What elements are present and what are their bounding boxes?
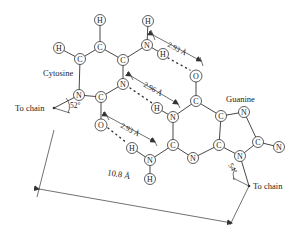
atom-c: C	[118, 55, 129, 66]
atom-c: C	[253, 137, 264, 148]
atom-n: N	[235, 151, 246, 162]
atom-n: N	[145, 155, 156, 166]
atom-c: C	[96, 92, 107, 103]
svg-text:N: N	[190, 154, 196, 163]
svg-text:N: N	[144, 41, 150, 50]
svg-text:H: H	[160, 50, 166, 59]
hbond-middle-label: 2.96 Å	[142, 80, 165, 98]
atom-n: N	[168, 112, 179, 123]
svg-text:N: N	[241, 108, 247, 117]
to-chain-right-label: To chain	[253, 181, 283, 191]
distance-markers	[37, 30, 249, 225]
atom-c: C	[168, 140, 179, 151]
atom-n: N	[118, 79, 129, 90]
atom-h: H	[145, 174, 156, 185]
atom-h: H	[158, 49, 169, 60]
svg-text:C: C	[77, 55, 82, 64]
svg-text:N: N	[170, 113, 176, 122]
svg-text:C: C	[98, 93, 103, 102]
svg-text:H: H	[154, 104, 160, 113]
atom-n: N	[142, 40, 153, 51]
cytosine-label: Cytosine	[43, 68, 73, 78]
svg-text:N: N	[276, 143, 282, 152]
atom-h: H	[54, 43, 65, 54]
atom-c: C	[214, 140, 225, 151]
atom-h: H	[143, 16, 154, 27]
svg-text:N: N	[120, 80, 126, 89]
atom-c: C	[216, 111, 227, 122]
svg-text:C: C	[216, 141, 221, 150]
atom-c: C	[75, 54, 86, 65]
svg-text:C: C	[193, 97, 198, 106]
atom-o: O	[190, 70, 202, 82]
atom-h: H	[152, 103, 163, 114]
svg-text:H: H	[129, 144, 135, 153]
hbond-bottom-label: 2.93 Å	[119, 121, 142, 139]
svg-text:N: N	[76, 91, 82, 100]
atom-h: H	[127, 143, 138, 154]
hydrogen-bonds	[108, 58, 190, 143]
angle-right-label: 54°	[226, 162, 239, 176]
atom-n: N	[188, 153, 199, 164]
svg-text:N: N	[147, 156, 153, 165]
to-chain-left-label: To chain	[15, 103, 45, 113]
svg-text:H: H	[145, 17, 151, 26]
svg-text:C: C	[120, 56, 125, 65]
atom-c: C	[95, 42, 106, 53]
atom-n: N	[274, 142, 285, 153]
base-pair-diagram: H C H C C N H H N N C O O C N H C N C N …	[0, 0, 299, 238]
chain-distance-label: 10.8 Å	[107, 167, 132, 181]
svg-text:C: C	[97, 43, 102, 52]
guanine-label: Guanine	[226, 94, 255, 104]
atom-n: N	[239, 107, 250, 118]
atom-o: O	[95, 119, 107, 131]
atom-h: H	[95, 15, 106, 26]
svg-text:H: H	[147, 175, 153, 184]
svg-text:H: H	[56, 44, 62, 53]
angle-left-label: 52°	[70, 101, 81, 110]
svg-text:C: C	[218, 112, 223, 121]
hbond-top-label: 2.93 Å	[166, 40, 189, 58]
svg-text:C: C	[255, 138, 260, 147]
atom-n: N	[74, 90, 85, 101]
svg-text:O: O	[98, 121, 104, 130]
svg-text:C: C	[170, 141, 175, 150]
svg-text:H: H	[97, 16, 103, 25]
svg-text:O: O	[193, 72, 199, 81]
atom-c: C	[191, 96, 202, 107]
svg-text:N: N	[237, 152, 243, 161]
